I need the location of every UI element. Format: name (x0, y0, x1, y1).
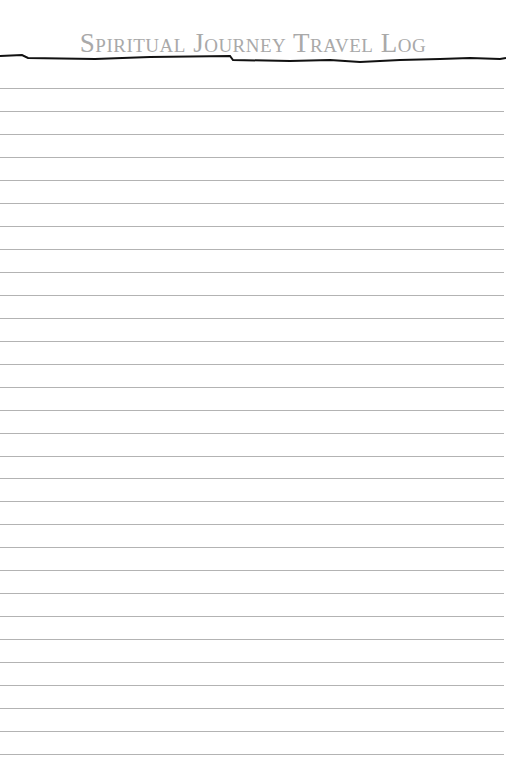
writing-line (0, 433, 504, 434)
writing-line (0, 685, 504, 686)
writing-line (0, 570, 504, 571)
writing-line (0, 524, 504, 525)
writing-line (0, 708, 504, 709)
writing-line (0, 249, 504, 250)
writing-line (0, 134, 504, 135)
writing-line (0, 364, 504, 365)
writing-line (0, 478, 504, 479)
writing-line (0, 157, 504, 158)
writing-line (0, 616, 504, 617)
writing-line (0, 731, 504, 732)
writing-line (0, 295, 504, 296)
writing-line (0, 272, 504, 273)
writing-line (0, 180, 504, 181)
writing-line (0, 410, 504, 411)
writing-line (0, 318, 504, 319)
writing-line (0, 387, 504, 388)
writing-line (0, 88, 504, 89)
writing-line (0, 203, 504, 204)
writing-line (0, 547, 504, 548)
writing-line (0, 111, 504, 112)
writing-line (0, 501, 504, 502)
writing-line (0, 662, 504, 663)
writing-line (0, 341, 504, 342)
writing-line (0, 593, 504, 594)
writing-line (0, 456, 504, 457)
header-rule (0, 50, 506, 66)
writing-line (0, 754, 504, 755)
writing-line (0, 639, 504, 640)
writing-line (0, 226, 504, 227)
